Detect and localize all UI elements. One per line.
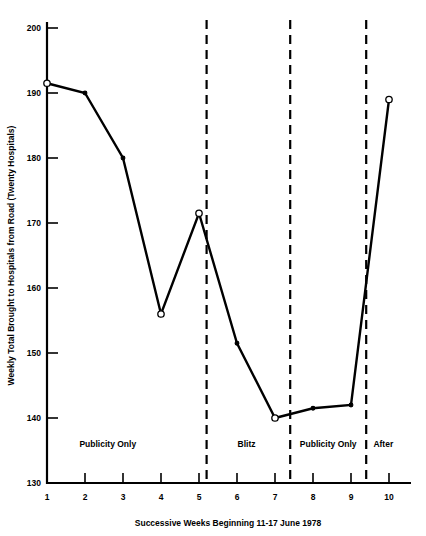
y-axis-tick-label-group: 130140150160170180190200 (27, 23, 41, 488)
x-axis-tick-label: 7 (273, 492, 278, 502)
period-label: Blitz (238, 439, 256, 449)
data-point-marker (349, 403, 353, 407)
x-axis-tick-label: 6 (235, 492, 240, 502)
period-label-group: Publicity OnlyBlitzPublicity OnlyAfter (79, 439, 393, 449)
y-axis-tick-label: 190 (27, 88, 41, 98)
x-axis-tick-label-group: 12345678910 (45, 492, 394, 502)
x-axis-tick-label: 4 (159, 492, 164, 502)
data-point-marker (158, 311, 164, 317)
data-point-marker (121, 156, 125, 160)
period-label: Publicity Only (79, 439, 136, 449)
x-axis-tick-label: 2 (83, 492, 88, 502)
data-point-marker-group (44, 80, 392, 421)
data-point-marker (235, 341, 239, 345)
data-series-line (47, 83, 389, 418)
period-divider-group (207, 20, 367, 481)
chart-axes (47, 22, 411, 483)
x-axis-tick-label: 5 (197, 492, 202, 502)
y-axis-tick-label: 170 (27, 218, 41, 228)
data-point-marker (386, 96, 392, 102)
x-axis-tick-label: 8 (311, 492, 316, 502)
data-point-marker (272, 415, 278, 421)
x-axis-tick-label: 1 (45, 492, 50, 502)
x-axis-tick-label: 10 (384, 492, 394, 502)
data-point-marker (311, 406, 315, 410)
chart-container: 130140150160170180190200 12345678910 Pub… (0, 0, 426, 536)
data-point-marker (196, 210, 202, 216)
x-axis-tick-label: 3 (121, 492, 126, 502)
data-point-marker (44, 80, 50, 86)
data-point-marker (83, 91, 87, 95)
x-axis-tick-group (85, 473, 389, 483)
line-chart: 130140150160170180190200 12345678910 Pub… (0, 0, 426, 536)
period-label: After (373, 439, 394, 449)
y-axis-tick-label: 130 (27, 478, 41, 488)
y-axis-tick-label: 150 (27, 348, 41, 358)
y-axis-title: Weekly Total Brought to Hospitals from R… (6, 125, 16, 385)
y-axis-tick-label: 160 (27, 283, 41, 293)
period-label: Publicity Only (300, 439, 357, 449)
x-axis-title: Successive Weeks Beginning 11-17 June 19… (135, 518, 322, 528)
y-axis-tick-label: 200 (27, 23, 41, 33)
y-axis-tick-label: 180 (27, 153, 41, 163)
y-axis-tick-label: 140 (27, 413, 41, 423)
x-axis-tick-label: 9 (349, 492, 354, 502)
